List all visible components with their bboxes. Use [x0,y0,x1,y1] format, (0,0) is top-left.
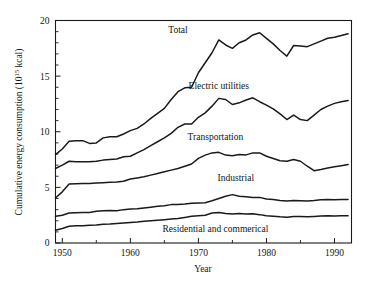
y-tick-label: 10 [40,127,50,137]
y-axis-tick-labels: 05101520 [40,16,50,249]
y-tick-label: 20 [40,16,50,26]
y-axis-title: Cumulative energy consumption (1015 kcal… [13,49,25,216]
y-tick-label: 0 [45,238,50,248]
y-axis-ticks [56,21,61,244]
series-label: Transportation [188,132,244,142]
y-axis-title-suffix: kcal) [14,49,25,70]
y-tick-label: 5 [45,183,50,193]
x-tick-label: 1990 [325,248,344,258]
x-axis-ticks [62,238,334,243]
x-axis-tick-labels: 19501960197019801990 [53,248,344,258]
x-tick-label: 1970 [189,248,208,258]
series-line [56,195,349,217]
y-tick-label: 15 [40,72,50,82]
series-label: Industrial [218,173,255,183]
series-label: Residential and commerical [162,224,268,234]
energy-consumption-chart-figure: 05101520 19501960197019801990 Residentia… [0,0,369,293]
y-axis-title-main: Cumulative energy consumption (10 [14,76,25,215]
x-tick-label: 1950 [53,248,72,258]
chart-canvas: 05101520 19501960197019801990 Residentia… [0,0,369,293]
series-label: Electric utilities [189,81,250,91]
x-axis-title: Year [194,264,212,274]
series-line [56,152,349,198]
series-label: Total [168,25,188,35]
x-tick-label: 1980 [257,248,276,258]
series-annotations-group: Residential and commericalIndustrialTran… [162,25,268,234]
x-tick-label: 1960 [121,248,140,258]
